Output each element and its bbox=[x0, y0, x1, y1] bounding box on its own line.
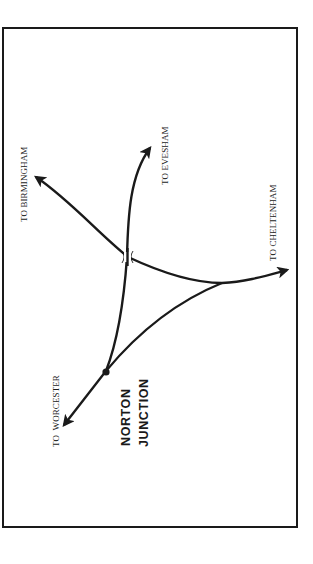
label-to-birmingham: TO BIRMINGHAM bbox=[20, 147, 29, 222]
label-to-evesham: TO EVESHAM bbox=[161, 126, 170, 185]
label-to-cheltenham: TO CHELTENHAM bbox=[269, 184, 278, 261]
junction-dot-icon bbox=[102, 368, 109, 375]
junction-title-line-1: NORTON bbox=[120, 388, 133, 446]
junction-title-line-2: JUNCTION bbox=[138, 378, 151, 447]
line-birmingham-cheltenham bbox=[36, 177, 287, 283]
label-to-worcester: TO WORCESTER bbox=[52, 375, 61, 447]
railway-junction-diagram bbox=[0, 0, 313, 564]
